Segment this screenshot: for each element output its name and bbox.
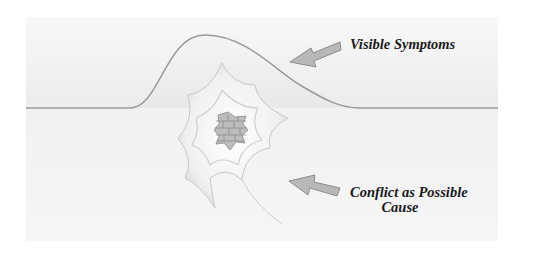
- arrow-to-conflict: [289, 175, 340, 196]
- arrow-to-symptoms: [290, 42, 341, 67]
- label-conflict-line2: Cause: [350, 200, 450, 215]
- label-conflict-cause: Conflict as Possible Cause: [350, 185, 450, 215]
- iceberg-diagram: [0, 0, 547, 254]
- label-conflict-line1: Conflict as Possible: [350, 185, 450, 200]
- label-visible-symptoms: Visible Symptoms: [350, 37, 455, 52]
